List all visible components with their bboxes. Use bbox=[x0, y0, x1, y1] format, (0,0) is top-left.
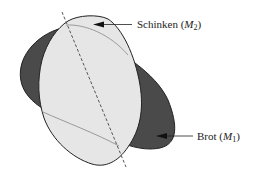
schinken-set-shape bbox=[39, 16, 142, 165]
venn-diagram bbox=[0, 0, 256, 175]
close-paren: ) bbox=[198, 18, 202, 30]
close-paren: ) bbox=[236, 130, 240, 142]
set-symbol: M bbox=[223, 130, 232, 142]
schinken-label: Schinken (M2) bbox=[137, 18, 201, 30]
brot-label: Brot (M1) bbox=[197, 130, 240, 142]
brot-label-text: Brot ( bbox=[197, 130, 223, 142]
set-symbol: M bbox=[184, 18, 193, 30]
schinken-label-text: Schinken ( bbox=[137, 18, 184, 30]
